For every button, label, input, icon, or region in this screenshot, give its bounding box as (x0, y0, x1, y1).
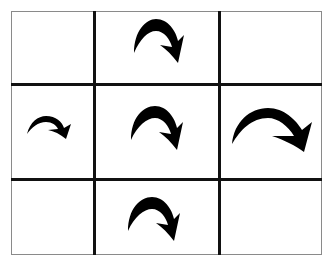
curved-arrow-clockwise-icon (129, 104, 183, 152)
grid-horizontal-line-2 (11, 178, 322, 181)
grid-horizontal-line-1 (11, 83, 322, 86)
grid-vertical-line-1 (93, 11, 96, 255)
small-curved-arrow-icon (26, 114, 72, 140)
wide-curved-arrow-icon (230, 106, 314, 153)
curved-arrow-clockwise-icon (132, 17, 184, 65)
grid-vertical-line-2 (218, 11, 221, 255)
curved-arrow-clockwise-icon (126, 195, 180, 243)
